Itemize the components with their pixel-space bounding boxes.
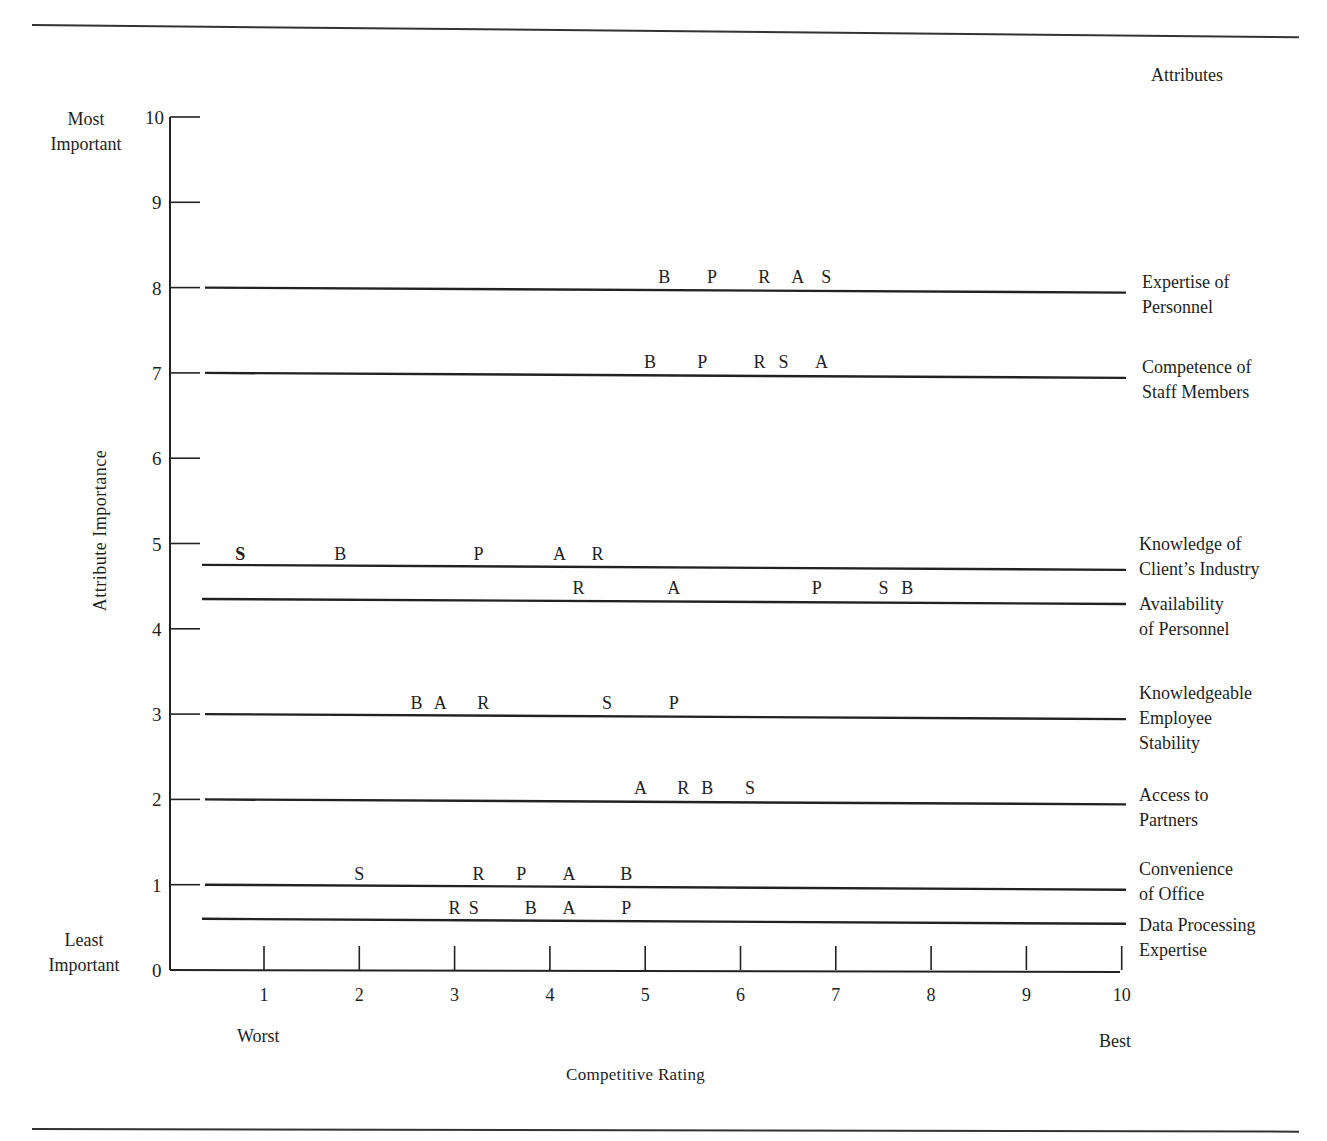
firm-marker-p: P — [669, 693, 679, 713]
attribute-label: Competence of Staff Members — [1142, 355, 1251, 405]
attribute-label: Access to Partners — [1139, 783, 1208, 833]
firm-marker-b: B — [620, 864, 632, 884]
y-tick-label: 10 — [145, 107, 164, 128]
firm-marker-b: B — [901, 578, 913, 598]
firm-marker-p: P — [621, 898, 631, 918]
y-tick-label: 7 — [152, 363, 162, 384]
firm-marker-b: B — [410, 693, 422, 713]
y-tick-label: 4 — [152, 619, 162, 640]
firm-marker-p: P — [473, 544, 483, 564]
firm-marker-a: A — [791, 267, 804, 287]
firm-marker-r: R — [477, 693, 489, 713]
x-tick-label: 8 — [927, 985, 936, 1005]
firm-marker-a: A — [667, 578, 680, 598]
firm-marker-s: S — [878, 578, 888, 598]
y-tick-label: 3 — [152, 704, 162, 725]
firm-marker-a: A — [634, 778, 647, 798]
attribute-line — [202, 919, 1124, 924]
firm-marker-a: A — [562, 864, 575, 884]
x-tick-label: 5 — [641, 985, 650, 1005]
firm-marker-r: R — [677, 778, 689, 798]
firm-marker-a: A — [562, 898, 575, 918]
attribute-label: Expertise of Personnel — [1142, 270, 1229, 320]
firm-marker-r: R — [592, 544, 604, 564]
firm-marker-r: R — [472, 864, 484, 884]
chart-plot: 01234567891012345678910BPRASBPRSASBPARRA… — [0, 0, 1327, 1141]
x-tick-label: 9 — [1022, 985, 1031, 1005]
x-axis-line — [170, 970, 1120, 972]
firm-marker-r: R — [572, 578, 584, 598]
firm-marker-a: A — [434, 693, 447, 713]
y-tick-label: 8 — [152, 278, 162, 299]
firm-marker-b: B — [644, 352, 656, 372]
firm-marker-s: S — [469, 898, 479, 918]
y-tick-label: 9 — [152, 192, 162, 213]
firm-marker-b: B — [701, 778, 713, 798]
attribute-label: Knowledge of Client’s Industry — [1139, 532, 1260, 582]
firm-marker-p: P — [516, 864, 526, 884]
attribute-line — [205, 799, 1124, 804]
x-tick-label: 7 — [831, 985, 840, 1005]
x-tick-label: 2 — [355, 985, 364, 1005]
firm-marker-r: R — [449, 898, 461, 918]
x-tick-label: 1 — [260, 985, 269, 1005]
firm-marker-s: S — [778, 352, 788, 372]
firm-marker-r: R — [754, 352, 766, 372]
x-tick-label: 3 — [450, 985, 459, 1005]
firm-marker-p: P — [697, 352, 707, 372]
firm-marker-s: S — [602, 693, 612, 713]
firm-marker-a: A — [553, 544, 566, 564]
y-tick-label: 6 — [152, 448, 162, 469]
y-tick-label: 1 — [152, 875, 162, 896]
attribute-label: Convenience of Office — [1139, 857, 1233, 907]
firm-marker-s: S — [745, 778, 755, 798]
attribute-line — [202, 599, 1124, 604]
x-tick-label: 4 — [545, 985, 554, 1005]
x-tick-label: 10 — [1113, 985, 1131, 1005]
firm-marker-r: R — [758, 267, 770, 287]
firm-marker-s: S — [821, 267, 831, 287]
firm-marker-b: B — [525, 898, 537, 918]
y-tick-label: 0 — [152, 960, 162, 981]
firm-marker-a: A — [815, 352, 828, 372]
attribute-line — [205, 885, 1124, 890]
firm-marker-p: P — [707, 267, 717, 287]
y-tick-label: 5 — [152, 534, 162, 555]
attribute-label: Data Processing Expertise — [1139, 913, 1255, 963]
firm-marker-s: S — [235, 544, 245, 564]
x-tick-label: 6 — [736, 985, 745, 1005]
attribute-line — [202, 565, 1124, 570]
attribute-label: Availability of Personnel — [1139, 592, 1229, 642]
firm-marker-b: B — [334, 544, 346, 564]
attribute-label: Knowledgeable Employee Stability — [1139, 681, 1252, 756]
attribute-line — [205, 373, 1124, 378]
attribute-line — [205, 288, 1124, 293]
firm-marker-p: P — [812, 578, 822, 598]
firm-marker-s: S — [354, 864, 364, 884]
attribute-line — [205, 714, 1124, 719]
firm-marker-b: B — [658, 267, 670, 287]
y-tick-label: 2 — [152, 789, 162, 810]
